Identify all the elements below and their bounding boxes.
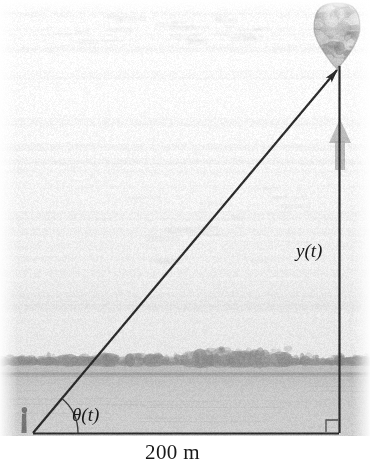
- figure-canvas: [0, 0, 370, 476]
- balloon-related-rates-figure: y(t) θ(t) 200 m: [0, 0, 370, 476]
